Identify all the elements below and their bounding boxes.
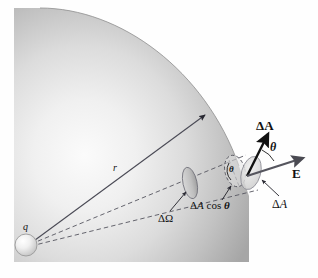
area-scalar-label: ΔA [272,198,287,210]
projected-area-a: A [197,199,204,211]
leader-line-area-scalar [262,180,279,196]
theta-outer-label: θ [270,141,276,153]
area-scalar-delta: Δ [272,197,280,211]
diagram-svg [0,0,318,278]
spherical-gaussian-surface [14,8,249,262]
area-scalar-a: A [280,197,287,211]
field-vector-label: E [292,167,301,180]
area-vector-label: ΔA [256,119,274,132]
figure-canvas: q r ΔΩ ΔA cos θ ΔA E ΔA θ θ [0,0,318,278]
charge-label: q [23,222,28,232]
projected-area-theta: θ [224,199,230,211]
radius-label: r [113,163,117,173]
point-charge-sphere [15,234,37,256]
solid-angle-label: ΔΩ [158,213,173,224]
projected-area-cos: cos [207,199,222,211]
projected-area-label: ΔA cos θ [190,200,230,211]
theta-inner-label: θ [229,165,234,174]
